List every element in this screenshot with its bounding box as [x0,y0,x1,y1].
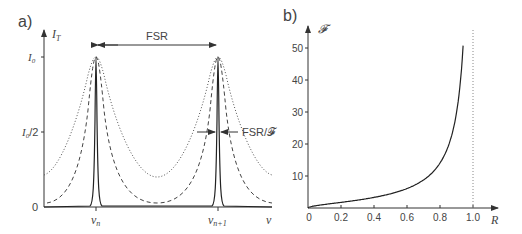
a-ytick-zero: 0 [32,201,38,213]
b-xtick: 0.2 [334,212,348,223]
a-y-axis-label: IT [51,27,61,43]
a-xtick-nu-n1: νn+1 [208,213,227,228]
b-xtick: 0 [306,212,312,223]
b-xtick: 0.6 [400,212,414,223]
fsr-label: FSR [146,30,168,42]
figure: a) IT I0 I0/2 0 νn νn+1 ν FSR FSR/𝓕 b) 𝓕… [0,0,522,234]
a-ytick-half: I0/2 [21,126,38,140]
fsr-over-f-label: FSR/𝓕 [242,126,277,138]
a-xtick-nu-n: νn [91,213,100,228]
b-ytick: 30 [292,107,304,118]
b-y-axis-label: 𝓕 [318,22,331,36]
b-ytick: 20 [292,139,304,150]
b-x-axis-label: R [490,213,499,227]
a-ytick-i0: I0 [27,51,36,65]
a-curve-dashed [47,57,272,203]
b-finesse-curve [308,46,463,208]
a-x-axis-label: ν [266,213,272,227]
b-xtick: 0.4 [367,212,381,223]
panel-a-label: a) [18,13,32,30]
b-xtick: 0.8 [433,212,447,223]
b-xtick: 1.0 [466,212,480,223]
panel-b-label: b) [283,7,297,24]
b-ytick: 10 [292,171,304,182]
b-ytick: 50 [292,43,304,54]
b-ytick: 40 [292,75,304,86]
a-curve-dotted [44,57,272,177]
